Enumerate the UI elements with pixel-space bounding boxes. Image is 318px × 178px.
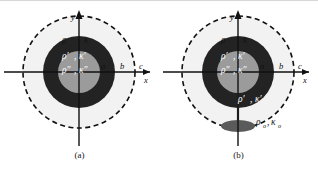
figure-container: y x a b c ρ κ ρ′ , κ′ ρ″ , κ″ (a) — [0, 0, 318, 178]
tick-label-a: a — [101, 61, 105, 71]
label-shell-lower-comma: , — [250, 94, 252, 104]
label-shell-kappa: κ′ — [79, 51, 87, 61]
x-axis-label: x — [143, 75, 148, 85]
panel-a: y x a b c ρ κ ρ′ , κ′ ρ″ , κ″ (a) — [0, 0, 159, 178]
label-outer-kappa: κ — [243, 35, 248, 45]
tick-label-a: a — [260, 61, 264, 71]
y-axis-label: y — [70, 12, 75, 22]
tick-label-b: b — [120, 61, 124, 71]
label-shell-comma: , — [233, 51, 235, 61]
tick-label-b: b — [279, 61, 283, 71]
panel-b-caption: (b) — [159, 150, 318, 160]
y-axis-label: y — [229, 12, 234, 22]
label-ellipse-comma: , — [267, 117, 269, 127]
panel-b: y x a b c ρ κ ρ′ , κ′ ρ″ , κ″ ρ′ , κ′ ρ … — [159, 0, 318, 178]
panel-b-diagram: y x a b c ρ κ ρ′ , κ′ ρ″ , κ″ ρ′ , κ′ ρ … — [159, 0, 318, 150]
panel-a-caption: (a) — [0, 150, 159, 160]
label-shell-lower-kappa: κ′ — [255, 94, 263, 104]
label-core-comma: , — [233, 65, 235, 75]
label-outer-rho: ρ — [220, 35, 226, 45]
label-ellipse-rho: ρ — [255, 117, 261, 127]
label-shell-rho: ρ′ — [220, 51, 229, 61]
tick-label-c: c — [139, 61, 143, 71]
label-ellipse-kappa: κ — [271, 117, 276, 127]
label-shell-lower-rho: ρ′ — [237, 94, 246, 104]
label-ellipse-kappa-subscript: o — [278, 122, 281, 129]
label-core-rho: ρ″ — [220, 65, 231, 75]
label-ellipse-rho-subscript: o — [263, 122, 266, 129]
y-axis-arrowhead — [76, 10, 83, 19]
tick-label-c: c — [298, 61, 302, 71]
label-shell-kappa: κ′ — [238, 51, 246, 61]
label-shell-comma: , — [74, 51, 76, 61]
y-axis-arrowhead — [235, 10, 242, 19]
x-axis-label: x — [302, 75, 307, 85]
label-shell-rho: ρ′ — [61, 51, 70, 61]
label-core-kappa: κ″ — [79, 65, 89, 75]
panel-a-diagram: y x a b c ρ κ ρ′ , κ′ ρ″ , κ″ — [0, 0, 159, 150]
label-core-kappa: κ″ — [238, 65, 248, 75]
label-outer-rho: ρ — [61, 35, 67, 45]
label-core-comma: , — [74, 65, 76, 75]
label-core-rho: ρ″ — [61, 65, 72, 75]
label-outer-kappa: κ — [84, 35, 89, 45]
